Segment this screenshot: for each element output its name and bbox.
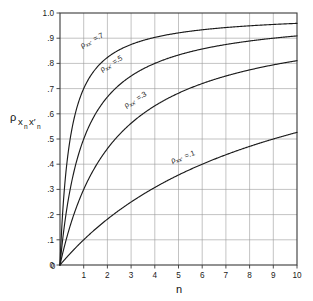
x-axis-tick-label: 2 <box>105 271 110 280</box>
y-axis-tick-label: 1.0 <box>43 9 55 18</box>
y-axis-tick-label: .8 <box>47 59 54 68</box>
x-axis-tick-label: 6 <box>200 271 205 280</box>
x-axis-tick-label: 10 <box>292 271 302 280</box>
x-axis-tick-label: 7 <box>224 271 229 280</box>
y-axis-tick-label: .9 <box>47 34 54 43</box>
x-axis-tick-label: 3 <box>129 271 134 280</box>
y-axis-title-rho: ρ <box>10 111 16 123</box>
x-axis-tick-label: 4 <box>153 271 158 280</box>
chart-container: 0.1.2.3.4.5.6.7.8.91.0 012345678910 ρxx'… <box>0 0 313 301</box>
y-axis-tick-label: .6 <box>47 110 54 119</box>
x-axis-tick-label: 0 <box>51 262 56 271</box>
x-axis-tick-label: 8 <box>247 271 252 280</box>
x-axis-tick-label: 5 <box>176 271 181 280</box>
spearman-brown-chart: 0.1.2.3.4.5.6.7.8.91.0 012345678910 ρxx'… <box>0 0 313 301</box>
y-axis-title-n1: n <box>24 123 28 130</box>
chart-background <box>0 0 313 301</box>
y-axis-title-x2: x′ <box>29 116 36 127</box>
y-axis-tick-label: .1 <box>47 236 54 245</box>
x-axis-title: n <box>176 283 182 295</box>
y-axis-tick-label: .7 <box>47 85 54 94</box>
x-axis-tick-label: 9 <box>271 271 276 280</box>
y-axis-tick-label: .5 <box>47 135 54 144</box>
x-axis-tick-label: 1 <box>81 271 86 280</box>
y-axis-title-n2: n <box>37 123 41 130</box>
y-axis-tick-label: .4 <box>47 160 54 169</box>
y-axis-tick-label: .2 <box>47 211 54 220</box>
y-axis-tick-label: .3 <box>47 185 54 194</box>
y-axis-title-x1: x <box>18 116 23 127</box>
